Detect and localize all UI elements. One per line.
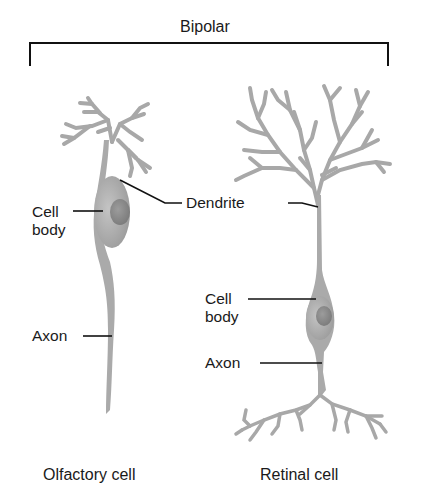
olfactory-caption: Olfactory cell — [43, 466, 135, 484]
olfactory-axon-label: Axon — [32, 327, 67, 345]
olfactory-nucleus — [110, 199, 130, 225]
olfactory-cell-body-line2: body — [32, 221, 66, 239]
olfactory-cell-body-line1: Cell — [32, 203, 66, 221]
retinal-cell-body-line2: body — [205, 308, 239, 326]
bipolar-bracket — [30, 43, 388, 66]
retinal-cell-body-label: Cell body — [205, 290, 239, 326]
bipolar-neuron-diagram: Bipolar Cell body Axon Dendrite Cell bod… — [0, 0, 425, 487]
olfactory-cell-body-label: Cell body — [32, 203, 66, 239]
retinal-nucleus — [316, 306, 332, 326]
olfactory-cell — [62, 98, 150, 414]
retinal-cell-body-line1: Cell — [205, 290, 239, 308]
retinal-caption: Retinal cell — [260, 466, 338, 484]
diagram-title: Bipolar — [180, 18, 230, 36]
dendrite-label: Dendrite — [186, 194, 245, 212]
retinal-axon-label: Axon — [205, 354, 240, 372]
neuron-illustration — [0, 0, 425, 487]
retinal-cell — [236, 86, 390, 440]
